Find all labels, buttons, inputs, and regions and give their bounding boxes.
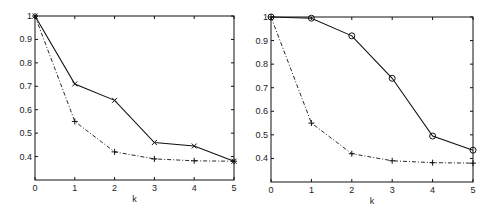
x-tick-label: 5 (470, 185, 475, 195)
plus-marker (308, 120, 314, 126)
x-tick-label: 5 (231, 183, 236, 193)
y-tick-label: 0.7 (19, 81, 32, 91)
plus-marker (72, 118, 78, 124)
y-tick-label: 0.5 (255, 130, 268, 140)
y-tick-label: 0.6 (255, 106, 268, 116)
y-tick-label: 0.4 (255, 153, 268, 163)
x-tick-label: 4 (430, 185, 435, 195)
x-tick-label: 1 (309, 185, 314, 195)
y-tick-label: 0.8 (255, 59, 268, 69)
chart-panel-1: 0123450.40.50.60.70.80.91k (19, 11, 237, 204)
plus-marker (389, 158, 395, 164)
y-tick-label: 0.9 (255, 36, 268, 46)
y-tick-label: 0.5 (19, 128, 32, 138)
chart-panel-2: 0123450.40.50.60.70.80.91k (255, 12, 476, 204)
series-line-solid-circle (271, 17, 473, 150)
plus-marker (470, 160, 476, 166)
y-tick-label: 0.6 (19, 105, 32, 115)
plus-marker (191, 158, 197, 164)
x-tick-label: 3 (152, 183, 157, 193)
x-axis-label: k (132, 194, 137, 204)
x-axis-label: k (370, 196, 375, 204)
x-tick-label: 0 (32, 183, 37, 193)
x-marker (72, 81, 77, 86)
y-tick-label: 0.8 (19, 58, 32, 68)
figure: 0123450.40.50.60.70.80.91k0123450.40.50.… (0, 0, 496, 204)
y-tick-label: 1 (263, 12, 268, 22)
y-tick-label: 0.7 (255, 83, 268, 93)
x-tick-label: 0 (268, 185, 273, 195)
x-tick-label: 4 (192, 183, 197, 193)
plus-marker (151, 156, 157, 162)
plus-marker (430, 160, 436, 166)
x-tick-label: 3 (390, 185, 395, 195)
y-tick-label: 0.4 (19, 152, 32, 162)
x-tick-label: 1 (72, 183, 77, 193)
series-line-dashed-plus (271, 17, 473, 163)
series-line-dashed-plus (35, 16, 234, 161)
y-tick-label: 0.9 (19, 34, 32, 44)
y-tick-label: 1 (27, 11, 32, 21)
plot-frame (271, 17, 473, 182)
x-marker (112, 98, 117, 103)
series-line-solid-x (35, 16, 234, 161)
x-tick-label: 2 (349, 185, 354, 195)
x-tick-label: 2 (112, 183, 117, 193)
plus-marker (349, 151, 355, 157)
